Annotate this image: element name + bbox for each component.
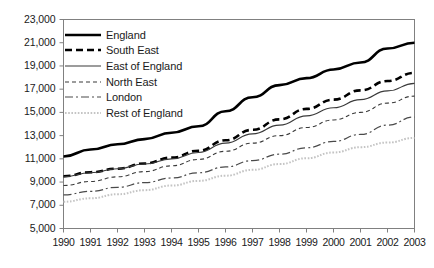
legend-item-label: London xyxy=(102,91,142,103)
legend-item-north-east: North East xyxy=(64,74,214,90)
y-axis-tick-label: 7,000 xyxy=(0,198,56,210)
line-chart: 5,0007,0009,00011,00013,00015,00017,0001… xyxy=(0,0,434,268)
series-line-london xyxy=(64,117,415,195)
legend-item-england: England xyxy=(64,27,214,43)
legend-item-label: England xyxy=(102,29,146,41)
legend-item-east-of-england: East of England xyxy=(64,58,214,74)
y-axis-tick-label: 23,000 xyxy=(0,13,56,25)
legend-item-south-east: South East xyxy=(64,43,214,59)
y-axis-tick-label: 9,000 xyxy=(0,175,56,187)
legend-line-swatch xyxy=(64,29,102,41)
legend-item-rest-of-england: Rest of England xyxy=(64,105,214,121)
y-axis-tick-label: 15,000 xyxy=(0,105,56,117)
x-axis-ticks xyxy=(64,229,415,233)
legend-item-label: Rest of England xyxy=(102,107,183,119)
legend-item-label: East of England xyxy=(102,60,182,72)
y-axis-tick-label: 11,000 xyxy=(0,152,56,164)
y-axis-tick-label: 13,000 xyxy=(0,129,56,141)
legend-line-swatch xyxy=(64,91,102,103)
y-axis-ticks xyxy=(60,20,64,229)
legend-line-swatch xyxy=(64,60,102,72)
legend-line-swatch xyxy=(64,44,102,56)
legend-item-london: London xyxy=(64,89,214,105)
chart-legend: EnglandSouth EastEast of EnglandNorth Ea… xyxy=(64,27,214,121)
legend-line-swatch xyxy=(64,76,102,88)
y-axis-tick-label: 17,000 xyxy=(0,82,56,94)
series-line-rest-of-england xyxy=(64,138,415,202)
legend-item-label: South East xyxy=(102,44,159,56)
y-axis-tick-label: 19,000 xyxy=(0,59,56,71)
legend-line-swatch xyxy=(64,107,102,119)
x-axis-tick-label: 2003 xyxy=(399,236,431,248)
y-axis-tick-label: 21,000 xyxy=(0,36,56,48)
legend-item-label: North East xyxy=(102,76,157,88)
y-axis-tick-label: 5,000 xyxy=(0,222,56,234)
